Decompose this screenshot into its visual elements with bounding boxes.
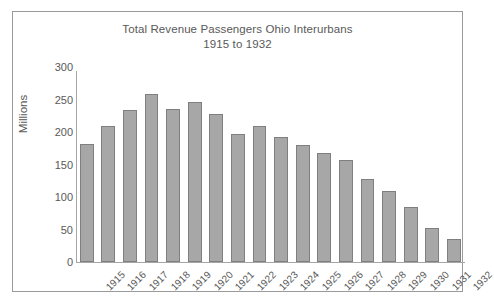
x-axis-tick-label: 1915	[103, 269, 127, 293]
y-axis-tick-label: 0	[33, 256, 73, 268]
bar-slot	[422, 67, 444, 262]
x-axis-tick-label: 1917	[147, 269, 171, 293]
bar	[361, 179, 375, 262]
x-axis-tick-labels: 1915191619171918191919201921192219231924…	[76, 264, 465, 305]
bar	[404, 207, 418, 262]
x-axis-tick-label: 1921	[233, 269, 257, 293]
bar-slot	[98, 67, 120, 262]
bar-slot	[314, 67, 336, 262]
x-axis-tick-label: 1927	[363, 269, 387, 293]
x-axis-tick-label: 1929	[406, 269, 430, 293]
bar	[145, 94, 159, 262]
bar	[123, 110, 137, 262]
bar-slot	[379, 67, 401, 262]
bar-slot	[249, 67, 271, 262]
x-axis-tick-label: 1924	[298, 269, 322, 293]
chart-title-line-2: 1915 to 1932	[13, 37, 462, 52]
bar	[425, 228, 439, 262]
x-axis-tick-label: 1923	[276, 269, 300, 293]
y-axis-tick-label: 200	[33, 126, 73, 138]
x-axis-tick-label: 1918	[168, 269, 192, 293]
bar-slot	[335, 67, 357, 262]
x-axis-tick-label: 1931	[449, 269, 473, 293]
bar-slot	[206, 67, 228, 262]
y-axis-tick-label: 150	[33, 159, 73, 171]
x-axis-tick-label: 1922	[255, 269, 279, 293]
x-axis-tick-label: 1916	[125, 269, 149, 293]
bar	[253, 126, 267, 263]
bar	[274, 137, 288, 262]
bar-slot	[271, 67, 293, 262]
bar	[231, 134, 245, 262]
x-axis-tick-label: 1925	[319, 269, 343, 293]
x-axis-tick-label: 1932	[471, 269, 494, 293]
bar	[166, 109, 180, 262]
bar-slot	[443, 67, 465, 262]
y-axis-tick-label: 50	[33, 224, 73, 236]
bar-slot	[119, 67, 141, 262]
bar	[382, 191, 396, 263]
x-axis-tick-label: 1926	[341, 269, 365, 293]
x-axis-tick-label: 1930	[427, 269, 451, 293]
bar-slot	[184, 67, 206, 262]
bar	[339, 160, 353, 262]
bar	[209, 114, 223, 262]
bar-slot	[400, 67, 422, 262]
bar	[447, 239, 461, 262]
bar-slot	[76, 67, 98, 262]
bar-slot	[227, 67, 249, 262]
bar-slot	[292, 67, 314, 262]
bar-slot	[357, 67, 379, 262]
x-axis-tick-label: 1920	[211, 269, 235, 293]
chart-title: Total Revenue Passengers Ohio Interurban…	[13, 22, 462, 52]
y-axis-tick-label: 250	[33, 94, 73, 106]
y-axis-tick-label: 300	[33, 61, 73, 73]
chart-title-line-1: Total Revenue Passengers Ohio Interurban…	[122, 23, 352, 35]
bar	[188, 102, 202, 262]
bar-slot	[141, 67, 163, 262]
bar	[317, 153, 331, 262]
y-axis-tick-labels: 300250200150100500	[27, 12, 73, 305]
x-axis-line	[76, 262, 465, 263]
x-axis-tick-label: 1919	[190, 269, 214, 293]
bar-slot	[162, 67, 184, 262]
y-axis-tick-label: 100	[33, 191, 73, 203]
x-axis-tick-label: 1928	[384, 269, 408, 293]
bar	[296, 145, 310, 262]
bar-series	[76, 67, 465, 262]
bar	[80, 144, 94, 262]
bar	[101, 126, 115, 263]
chart-container: Total Revenue Passengers Ohio Interurban…	[12, 11, 463, 292]
